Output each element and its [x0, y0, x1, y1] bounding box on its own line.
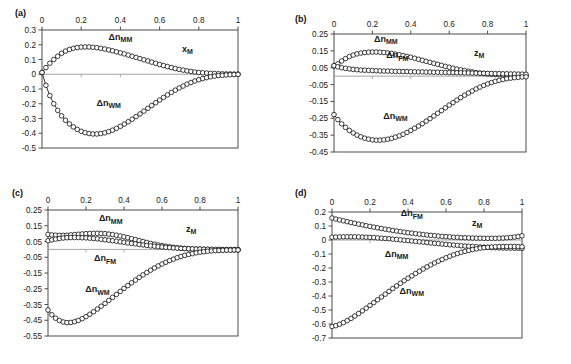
svg-text:0.05: 0.05 [312, 64, 328, 73]
svg-text:-0.05: -0.05 [23, 253, 42, 262]
svg-text:0.2: 0.2 [315, 208, 327, 217]
svg-text:0.4: 0.4 [115, 16, 127, 25]
svg-text:0: 0 [332, 20, 337, 29]
svg-text:0.2: 0.2 [364, 198, 376, 207]
svg-text:1: 1 [524, 20, 529, 29]
svg-text:0.4: 0.4 [118, 196, 130, 205]
svg-text:-0.25: -0.25 [309, 114, 328, 123]
svg-text:zM: zM [472, 218, 483, 229]
svg-text:-0.5: -0.5 [312, 306, 327, 315]
svg-text:0.6: 0.6 [444, 20, 456, 29]
svg-text:0.2: 0.2 [76, 16, 88, 25]
svg-text:0.2: 0.2 [367, 20, 379, 29]
svg-text:0.8: 0.8 [193, 16, 205, 25]
svg-text:-0.05: -0.05 [309, 81, 328, 90]
svg-text:0.8: 0.8 [478, 198, 490, 207]
figure-container: (a) 00.20.40.60.810.30.20.10-0.1-0.2-0.3… [0, 0, 571, 364]
panel-c-label: (c) [12, 188, 23, 198]
svg-text:0.1: 0.1 [315, 222, 327, 231]
svg-text:0.8: 0.8 [194, 196, 206, 205]
svg-text:-0.15: -0.15 [309, 97, 328, 106]
panel-a: (a) 00.20.40.60.810.30.20.10-0.1-0.2-0.3… [0, 0, 286, 182]
svg-text:0.2: 0.2 [80, 196, 92, 205]
svg-text:0.15: 0.15 [312, 47, 328, 56]
svg-text:-0.1: -0.1 [312, 250, 327, 259]
svg-text:1: 1 [520, 198, 525, 207]
svg-text:-0.2: -0.2 [22, 100, 37, 109]
svg-text:-0.3: -0.3 [22, 115, 37, 124]
svg-text:ΔnMM: ΔnMM [99, 213, 123, 224]
svg-text:0.25: 0.25 [26, 206, 42, 215]
svg-text:0.8: 0.8 [482, 20, 494, 29]
svg-text:ΔnWM: ΔnWM [85, 284, 110, 295]
svg-text:ΔnFM: ΔnFM [401, 208, 423, 219]
svg-text:ΔnWM: ΔnWM [96, 98, 121, 109]
svg-text:0.1: 0.1 [25, 56, 37, 65]
panel-c: (c) 00.20.40.60.810.250.150.05-0.05-0.15… [0, 182, 286, 364]
svg-text:ΔnMM: ΔnMM [385, 249, 409, 260]
panel-d-plot: 00.20.40.60.810.20.10-0.1-0.2-0.3-0.4-0.… [286, 182, 571, 364]
svg-text:0.6: 0.6 [156, 196, 168, 205]
svg-text:-0.35: -0.35 [23, 301, 42, 310]
svg-text:-0.35: -0.35 [309, 131, 328, 140]
svg-text:0: 0 [330, 198, 335, 207]
svg-text:0.4: 0.4 [405, 20, 417, 29]
svg-text:-0.7: -0.7 [312, 334, 327, 343]
svg-text:0.25: 0.25 [312, 30, 328, 39]
svg-text:-0.6: -0.6 [312, 320, 327, 329]
svg-text:-0.45: -0.45 [309, 148, 328, 157]
svg-text:-0.45: -0.45 [23, 316, 42, 325]
svg-text:zM: zM [186, 224, 197, 235]
svg-text:0.05: 0.05 [26, 238, 42, 247]
panel-a-label: (a) [15, 8, 26, 18]
svg-text:ΔnWM: ΔnWM [400, 286, 425, 297]
svg-text:-0.5: -0.5 [22, 144, 37, 153]
svg-text:0.3: 0.3 [25, 26, 37, 35]
svg-text:0.2: 0.2 [25, 41, 37, 50]
svg-text:0.15: 0.15 [26, 222, 42, 231]
panel-a-plot: 00.20.40.60.810.30.20.10-0.1-0.2-0.3-0.4… [0, 0, 286, 182]
svg-text:-0.1: -0.1 [22, 85, 37, 94]
svg-text:-0.55: -0.55 [23, 332, 42, 341]
svg-text:0: 0 [31, 70, 36, 79]
svg-text:0: 0 [40, 16, 45, 25]
svg-text:-0.3: -0.3 [312, 278, 327, 287]
svg-text:0: 0 [321, 236, 326, 245]
svg-text:0: 0 [46, 196, 51, 205]
panel-b: (b) 00.20.40.60.810.250.150.05-0.05-0.15… [286, 0, 571, 182]
svg-text:zM: zM [474, 48, 485, 59]
svg-text:-0.25: -0.25 [23, 285, 42, 294]
svg-text:-0.4: -0.4 [312, 292, 327, 301]
panel-c-plot: 00.20.40.60.810.250.150.05-0.05-0.15-0.2… [0, 182, 286, 364]
svg-text:xM: xM [182, 44, 193, 55]
svg-text:1: 1 [236, 16, 241, 25]
svg-text:ΔnFM: ΔnFM [94, 253, 116, 264]
svg-text:-0.2: -0.2 [312, 264, 327, 273]
svg-text:0.4: 0.4 [402, 198, 414, 207]
svg-text:-0.15: -0.15 [23, 269, 42, 278]
svg-text:0.6: 0.6 [154, 16, 166, 25]
svg-text:ΔnMM: ΔnMM [109, 32, 133, 43]
panel-b-label: (b) [295, 14, 307, 24]
svg-text:-0.4: -0.4 [22, 129, 37, 138]
panel-d-label: (d) [295, 188, 307, 198]
svg-text:1: 1 [236, 196, 241, 205]
svg-text:ΔnWM: ΔnWM [383, 111, 408, 122]
svg-text:0.6: 0.6 [440, 198, 452, 207]
svg-text:ΔnFM: ΔnFM [386, 50, 408, 61]
svg-text:ΔnMM: ΔnMM [374, 34, 398, 45]
panel-b-plot: 00.20.40.60.810.250.150.05-0.05-0.15-0.2… [286, 0, 571, 182]
panel-d: (d) 00.20.40.60.810.20.10-0.1-0.2-0.3-0.… [286, 182, 571, 364]
